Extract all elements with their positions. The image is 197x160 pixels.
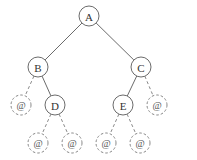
null-node: @ (96, 133, 116, 153)
tree-node-C: C (131, 57, 151, 77)
node-label: @ (67, 138, 76, 149)
node-label: @ (152, 100, 161, 111)
node-label: A (85, 11, 93, 23)
node-label: @ (135, 138, 144, 149)
node-label: @ (101, 138, 110, 149)
edge-B-D (42, 76, 51, 96)
node-label: B (34, 62, 41, 74)
tree-node-D: D (45, 95, 65, 115)
tree-node-B: B (28, 57, 48, 77)
edge-A-B (45, 23, 82, 60)
edge-C-E (127, 76, 136, 96)
tree-node-E: E (113, 95, 133, 115)
tree-nodes: ABC@DE@@@@@ (11, 6, 167, 153)
node-label: @ (33, 138, 42, 149)
tree-edges (25, 23, 153, 134)
null-node: @ (130, 133, 150, 153)
node-label: D (51, 100, 59, 112)
edge-D-nD1 (42, 114, 51, 134)
node-label: C (137, 62, 144, 74)
edge-C-nC (145, 76, 153, 96)
node-label: E (120, 100, 127, 112)
node-label: @ (16, 100, 25, 111)
edge-B-nB (25, 76, 34, 96)
binary-tree-diagram: ABC@DE@@@@@ (0, 0, 197, 160)
null-node: @ (147, 95, 167, 115)
null-node: @ (28, 133, 48, 153)
edge-E-nE1 (110, 114, 119, 134)
edge-D-nD2 (59, 114, 68, 134)
null-node: @ (11, 95, 31, 115)
null-node: @ (62, 133, 82, 153)
edge-E-nE2 (127, 114, 136, 134)
tree-node-A: A (79, 6, 99, 26)
edge-A-C (96, 23, 134, 60)
